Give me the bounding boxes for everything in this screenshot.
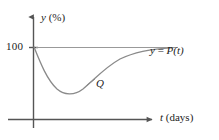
point-q-label: Q	[96, 78, 104, 89]
y-axis-label-unit: (%)	[49, 11, 66, 23]
q-leader-line	[87, 79, 96, 86]
t-axis-label-unit: (days)	[166, 111, 194, 123]
y-axis-label: y (%)	[41, 12, 65, 23]
t-axis-label: t (days)	[160, 112, 193, 123]
y-tick-label-100: 100	[6, 41, 23, 52]
curve-label-function: P(t)	[167, 44, 184, 56]
figure-container: y (%) t (days) 100 y = P(t) Q	[0, 0, 219, 140]
curve-equation-label: y = P(t)	[150, 45, 184, 56]
